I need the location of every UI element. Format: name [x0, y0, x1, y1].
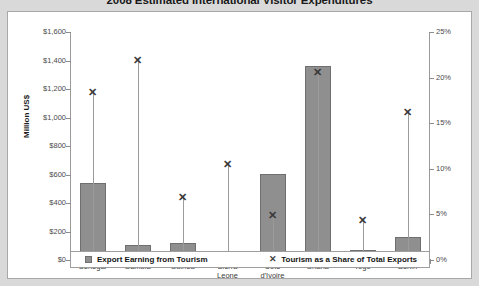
y-axis-right-tick [429, 78, 434, 79]
y-axis-left-tick-label: $600 [6, 171, 66, 179]
y-axis-left-tick-label: $1,200 [6, 85, 66, 93]
x-marker-icon: ✕ [132, 55, 143, 66]
y-axis-left-tick-label: $1,400 [6, 57, 66, 65]
y-axis-left-tick-label: $400 [6, 199, 66, 207]
x-marker-icon: ✕ [357, 215, 368, 226]
x-marker-icon: ✕ [312, 67, 323, 78]
y-axis-left-tick [66, 89, 71, 90]
chart-panel: Million US$ $0$200$400$600$800$1,000$1,2… [7, 11, 472, 279]
y-axis-left-tick [66, 61, 71, 62]
marker-stem [93, 91, 94, 259]
y-axis-right-tick-label: 15% [436, 119, 451, 127]
y-axis-right-tick [429, 214, 434, 215]
y-axis-left-tick [66, 203, 71, 204]
legend-bar-label: Export Earning from Tourism [97, 255, 208, 264]
y-axis-right-tick-label: 20% [436, 74, 451, 82]
y-axis-left-tick-label: $1,600 [6, 28, 66, 36]
y-axis-left-tick [66, 232, 71, 233]
legend-x-marker-icon: ✕ [268, 255, 277, 264]
marker-stem [183, 196, 184, 259]
marker-stem [408, 111, 409, 259]
legend-marker-label: Tourism as a Share of Total Exports [281, 255, 417, 264]
y-axis-right-tick-label: 25% [436, 28, 451, 36]
plot-area: $0$200$400$600$800$1,000$1,200$1,400$1,6… [70, 32, 430, 260]
y-axis-left-tick-label: $200 [6, 228, 66, 236]
y-axis-right-tick-label: 10% [436, 165, 451, 173]
y-axis-right [429, 32, 430, 260]
y-axis-left-tick [66, 32, 71, 33]
marker-stem [138, 59, 139, 259]
x-marker-icon: ✕ [222, 159, 233, 170]
x-marker-icon: ✕ [402, 107, 413, 118]
chart-legend: Export Earning from Tourism ✕ Tourism as… [70, 251, 430, 268]
y-axis-right-tick [429, 123, 434, 124]
y-axis-left-tick [66, 175, 71, 176]
x-marker-icon: ✕ [177, 192, 188, 203]
y-axis-left-tick-label: $1,000 [6, 114, 66, 122]
y-axis-right-tick [429, 32, 434, 33]
y-axis-right-tick [429, 169, 434, 170]
x-marker-icon: ✕ [87, 87, 98, 98]
legend-entry-export-earning: Export Earning from Tourism [85, 255, 208, 264]
chart-title: 2008 Estimated International Visitor Exp… [0, 0, 479, 6]
y-axis-left-tick [66, 118, 71, 119]
y-axis-left-tick-label: $800 [6, 142, 66, 150]
legend-entry-tourism-share: ✕ Tourism as a Share of Total Exports [268, 255, 417, 264]
marker-stem [228, 163, 229, 259]
legend-bar-swatch [85, 256, 92, 263]
y-axis-right-tick-label: 5% [436, 210, 447, 218]
x-marker-icon: ✕ [267, 210, 278, 221]
y-axis-left-tick [66, 146, 71, 147]
y-axis-right-tick-label: 0% [436, 256, 447, 264]
marker-stem [318, 71, 319, 259]
y-axis-left-tick-label: $0 [6, 256, 66, 264]
